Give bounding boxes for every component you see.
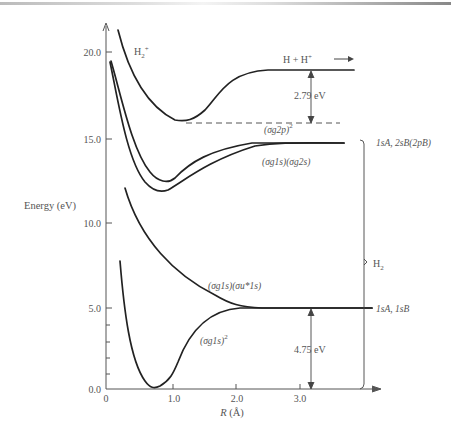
curve-sg1s-squared bbox=[120, 261, 372, 388]
y-axis-title: Energy (eV) bbox=[24, 200, 76, 212]
svg-text:5.0: 5.0 bbox=[89, 303, 102, 314]
svg-text:1.0: 1.0 bbox=[168, 393, 181, 404]
x-axis bbox=[106, 384, 381, 392]
y-axis bbox=[103, 23, 112, 389]
label-sg2p-squared: (σg2p)2 bbox=[264, 122, 293, 136]
label-4-75-ev: 4.75 eV bbox=[294, 344, 326, 355]
svg-text:15.0: 15.0 bbox=[84, 134, 102, 145]
label-sg1s-sg2s: (σg1s)(σg2s) bbox=[262, 157, 310, 168]
svg-text:10.0: 10.0 bbox=[84, 218, 102, 229]
label-limit-upper: 1sA, 2sB(2pB) bbox=[376, 138, 431, 149]
label-dissociation: H + H+ bbox=[283, 53, 354, 65]
potential-energy-chart: 20.0 15.0 10.0 5.0 0.0 0 1.0 2.0 3.0 Ene… bbox=[0, 0, 451, 436]
label-h2: H2 bbox=[373, 258, 384, 272]
svg-text:3.0: 3.0 bbox=[294, 393, 307, 404]
svg-text:20.0: 20.0 bbox=[84, 47, 102, 58]
label-2-79-ev: 2.79 eV bbox=[294, 90, 326, 101]
curve-h2plus bbox=[118, 30, 354, 121]
x-tick-labels: 0 1.0 2.0 3.0 bbox=[104, 393, 307, 404]
label-h2plus: H2+ bbox=[134, 45, 149, 60]
svg-text:0.0: 0.0 bbox=[89, 384, 102, 395]
y-tick-labels: 20.0 15.0 10.0 5.0 0.0 bbox=[84, 47, 102, 395]
svg-text:2.0: 2.0 bbox=[231, 393, 244, 404]
h2-bracket bbox=[360, 140, 367, 389]
label-limit-lower: 1sA, 1sB bbox=[376, 304, 409, 314]
svg-text:0: 0 bbox=[104, 393, 109, 404]
x-axis-title: R (Å) bbox=[219, 407, 244, 419]
curve-sg1s-sg2s bbox=[110, 62, 344, 191]
label-sg1s-squared: (σg1s)2 bbox=[200, 333, 228, 347]
svg-text:H + H+: H + H+ bbox=[283, 53, 312, 65]
label-sg1s-su1s: (σg1s)(σu*1s) bbox=[208, 281, 261, 292]
